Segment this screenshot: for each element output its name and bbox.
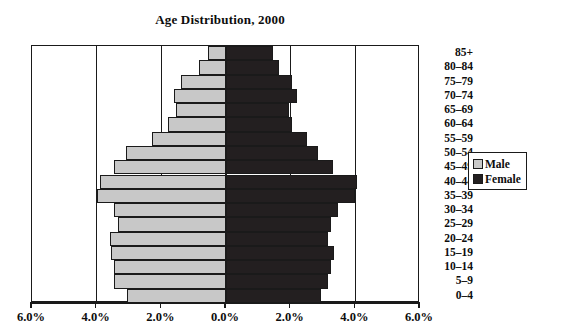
x-axis-label: 2.0%: [125, 310, 195, 325]
bar-female-85+: [226, 46, 273, 60]
plot-area: [31, 45, 419, 302]
age-label-55–59: 55–59: [425, 131, 473, 145]
bars-layer: [32, 46, 418, 301]
bar-row: [32, 89, 418, 103]
bar-row: [32, 160, 418, 174]
x-axis-label: 4.0%: [61, 310, 131, 325]
bar-female-80–84: [226, 60, 279, 74]
legend-item-female[interactable]: Female: [473, 171, 521, 186]
bar-row: [32, 46, 418, 60]
age-label-40–44: 40–44: [425, 174, 473, 188]
age-label-15–19: 15–19: [425, 245, 473, 259]
bar-male-85+: [208, 46, 226, 60]
bar-male-50–54: [126, 146, 226, 160]
bar-male-40–44: [100, 175, 226, 189]
bar-row: [32, 260, 418, 274]
bar-female-5–9: [226, 274, 328, 288]
bar-row: [32, 189, 418, 203]
bar-male-65–69: [176, 103, 226, 117]
bar-male-75–79: [181, 75, 226, 89]
bar-row: [32, 203, 418, 217]
bar-male-30–34: [114, 203, 226, 217]
bar-female-20–24: [226, 232, 328, 246]
age-label-30–34: 30–34: [425, 202, 473, 216]
bar-female-25–29: [226, 217, 331, 231]
bar-female-10–14: [226, 260, 331, 274]
bar-male-70–74: [174, 89, 226, 103]
x-axis-label: 2.0%: [255, 310, 325, 325]
bar-female-0–4: [226, 289, 321, 303]
bar-female-75–79: [226, 75, 292, 89]
bar-female-50–54: [226, 146, 318, 160]
bar-male-55–59: [152, 132, 226, 146]
bar-row: [32, 117, 418, 131]
bar-female-65–69: [226, 103, 289, 117]
age-label-75–79: 75–79: [425, 74, 473, 88]
x-axis-tick: [289, 302, 291, 308]
x-axis-tick: [418, 302, 420, 308]
bar-row: [32, 175, 418, 189]
chart-title: Age Distribution, 2000: [0, 12, 440, 28]
bar-male-60–64: [168, 117, 226, 131]
age-label-10–14: 10–14: [425, 259, 473, 273]
x-axis-tick: [224, 302, 226, 308]
chart-legend: MaleFemale: [468, 152, 527, 190]
x-axis-label: 6.0%: [384, 310, 454, 325]
age-label-45–49: 45–49: [425, 159, 473, 173]
age-label-50–54: 50–54: [425, 145, 473, 159]
x-axis-tick: [354, 302, 356, 308]
legend-label: Female: [485, 173, 521, 185]
age-category-labels: 85+80–8475–7970–7465–6960–6455–5950–5445…: [425, 45, 473, 302]
age-label-70–74: 70–74: [425, 88, 473, 102]
age-label-60–64: 60–64: [425, 116, 473, 130]
bar-male-15–19: [111, 246, 226, 260]
bar-female-30–34: [226, 203, 338, 217]
x-axis-label: 6.0%: [0, 310, 66, 325]
bar-row: [32, 217, 418, 231]
age-label-0–4: 0–4: [425, 288, 473, 302]
age-label-20–24: 20–24: [425, 231, 473, 245]
bar-row: [32, 103, 418, 117]
bar-female-40–44: [226, 175, 357, 189]
bar-female-60–64: [226, 117, 292, 131]
bar-female-15–19: [226, 246, 334, 260]
age-label-65–69: 65–69: [425, 102, 473, 116]
bar-male-0–4: [127, 289, 226, 303]
bar-female-70–74: [226, 89, 297, 103]
x-axis-label: 4.0%: [319, 310, 389, 325]
age-label-85+: 85+: [425, 45, 473, 59]
x-axis-tick: [95, 302, 97, 308]
bar-male-25–29: [118, 217, 226, 231]
bar-row: [32, 75, 418, 89]
bar-male-10–14: [114, 260, 226, 274]
population-pyramid-chart: Age Distribution, 2000 6.0%4.0%2.0%0.0%2…: [0, 0, 564, 336]
bar-female-55–59: [226, 132, 307, 146]
x-axis-tick: [30, 302, 32, 308]
bar-row: [32, 132, 418, 146]
legend-swatch-male-icon: [473, 159, 483, 169]
bar-row: [32, 146, 418, 160]
age-label-80–84: 80–84: [425, 59, 473, 73]
bar-male-35–39: [97, 189, 226, 203]
bar-female-35–39: [226, 189, 355, 203]
bar-male-80–84: [199, 60, 226, 74]
legend-item-male[interactable]: Male: [473, 156, 521, 171]
x-axis-label: 0.0%: [190, 310, 260, 325]
age-label-35–39: 35–39: [425, 188, 473, 202]
bar-female-45–49: [226, 160, 333, 174]
x-axis-tick: [160, 302, 162, 308]
bar-row: [32, 246, 418, 260]
bar-row: [32, 274, 418, 288]
bar-row: [32, 289, 418, 303]
age-label-5–9: 5–9: [425, 273, 473, 287]
bar-male-45–49: [114, 160, 226, 174]
legend-label: Male: [485, 158, 510, 170]
bar-male-20–24: [110, 232, 226, 246]
age-label-25–29: 25–29: [425, 216, 473, 230]
legend-swatch-female-icon: [473, 174, 483, 184]
bar-male-5–9: [114, 274, 226, 288]
bar-row: [32, 60, 418, 74]
bar-row: [32, 232, 418, 246]
